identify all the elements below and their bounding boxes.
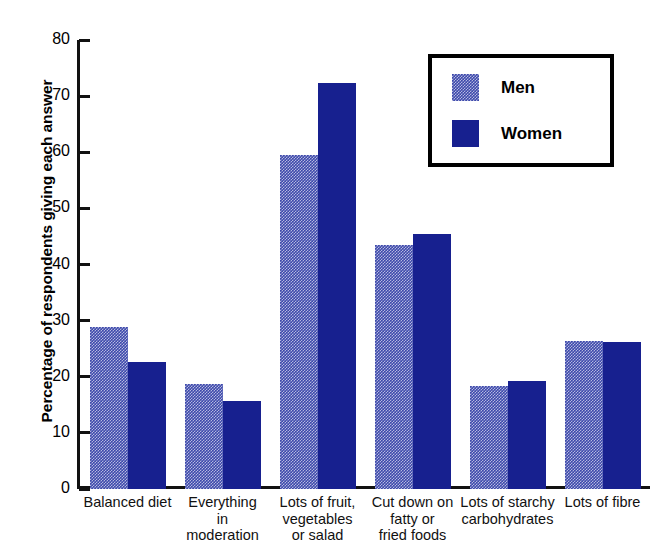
x-axis-tick-label: Cut down onfatty orfried foods — [359, 494, 466, 544]
bar-men — [565, 341, 603, 489]
y-axis-tick — [79, 488, 90, 491]
chart-figure: Percentage of respondents giving each an… — [0, 0, 660, 553]
bar-women — [223, 401, 261, 489]
x-axis-label-line: vegetables — [264, 511, 371, 528]
y-axis-tick-label: 70 — [36, 86, 70, 104]
y-axis-tick-label: 30 — [36, 311, 70, 329]
y-axis-tick-label: 80 — [36, 30, 70, 48]
y-axis-tick — [79, 151, 90, 154]
bar-women — [128, 362, 166, 489]
bar-women — [318, 83, 356, 489]
x-axis-label-line: Everything — [169, 494, 276, 511]
bar-men — [375, 245, 413, 489]
y-axis-tick — [79, 39, 90, 42]
x-axis-label-line: Lots of fruit, — [264, 494, 371, 511]
bar-men — [185, 384, 223, 489]
bar-men — [280, 155, 318, 490]
x-axis-label-line: fried foods — [359, 527, 466, 544]
y-axis-tick-label: 50 — [36, 198, 70, 216]
bar-women — [413, 234, 451, 489]
x-axis-label-line: Lots of starchy — [454, 494, 561, 511]
x-axis-label-line: carbohydrates — [454, 511, 561, 528]
legend-item-men: Men — [452, 74, 535, 101]
legend-label-men: Men — [501, 78, 535, 98]
legend-box: Men Women — [428, 54, 614, 167]
y-axis-tick-label: 40 — [36, 255, 70, 273]
y-axis-tick — [79, 95, 90, 98]
y-axis-tick-labels: 01020304050607080 — [28, 0, 70, 553]
y-axis-tick — [79, 207, 90, 210]
x-axis-tick-label: Lots of starchycarbohydrates — [454, 494, 561, 527]
bar-women — [508, 381, 546, 489]
legend-swatch-men — [452, 74, 479, 101]
y-axis-tick-label: 60 — [36, 142, 70, 160]
x-axis-tick-label: Balanced diet — [74, 494, 181, 511]
legend-swatch-women — [452, 120, 479, 147]
legend-label-women: Women — [501, 124, 562, 144]
y-axis-tick-label: 20 — [36, 367, 70, 385]
y-axis-tick — [79, 319, 90, 322]
legend-item-women: Women — [452, 120, 562, 147]
bar-men — [90, 327, 128, 489]
x-axis-label-line: Balanced diet — [74, 494, 181, 511]
bar-men — [470, 386, 508, 489]
x-axis-tick-labels: Balanced dietEverythinginmoderationLots … — [80, 494, 650, 553]
y-axis-tick — [79, 431, 90, 434]
y-axis-tick-label: 0 — [36, 479, 70, 497]
y-axis-tick — [79, 263, 90, 266]
x-axis-label-line: or salad — [264, 527, 371, 544]
x-axis-label-line: Lots of fibre — [549, 494, 656, 511]
x-axis-tick-label: Everythinginmoderation — [169, 494, 276, 544]
x-axis-label-line: Cut down on — [359, 494, 466, 511]
y-axis-tick-label: 10 — [36, 423, 70, 441]
cropped-title-text — [328, 0, 333, 9]
x-axis-label-line: fatty or — [359, 511, 466, 528]
y-axis-tick — [79, 375, 90, 378]
x-axis-label-line: in — [169, 511, 276, 528]
cropped-title-remnant — [0, 0, 660, 9]
x-axis-label-line: moderation — [169, 527, 276, 544]
bar-women — [603, 342, 641, 489]
x-axis-tick-label: Lots of fibre — [549, 494, 656, 511]
x-axis-tick-label: Lots of fruit,vegetablesor salad — [264, 494, 371, 544]
